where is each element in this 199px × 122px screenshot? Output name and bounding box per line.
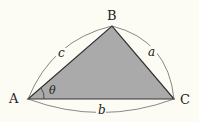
side-label-c: c — [58, 46, 65, 60]
vertex-label-c: C — [180, 92, 190, 107]
angle-label-theta: θ — [49, 84, 56, 97]
side-label-a: a — [148, 45, 155, 59]
vertex-label-b: B — [107, 8, 117, 23]
vertex-label-a: A — [8, 91, 19, 106]
triangle-diagram: B A C c a b θ — [0, 0, 199, 122]
side-label-b: b — [98, 103, 106, 117]
